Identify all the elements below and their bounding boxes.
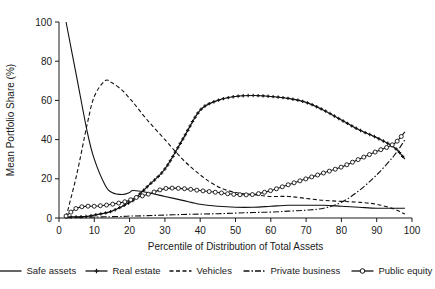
series-marker [176,186,180,190]
series-marker [286,97,289,100]
series-marker [367,153,371,157]
series-marker [333,167,337,171]
series-line [66,96,405,218]
series-marker [399,134,403,138]
chart-figure: 0204060801000102030405060708090100Percen… [0,0,435,289]
series-marker [379,148,383,152]
x-tick-label-40: 40 [195,225,207,236]
series-marker [390,143,394,147]
legend-item-vehicles[interactable]: Vehicles [170,265,233,276]
series-marker [80,205,84,209]
series-marker [152,190,156,194]
series-marker [111,202,115,206]
series-marker [117,201,121,205]
series-marker [123,200,127,204]
series-marker [129,198,133,202]
x-axis-title: Percentile of Distribution of Total Asse… [148,241,323,252]
series-marker [281,96,284,99]
series-marker [164,186,168,190]
x-tick-label-20: 20 [124,225,136,236]
y-tick-label-60: 60 [41,95,53,106]
y-tick-label-40: 40 [41,134,53,145]
x-tick-label-0: 0 [56,225,62,236]
series-marker [373,150,377,154]
series-marker [363,131,366,134]
series-marker [134,195,138,199]
series-marker [158,188,162,192]
legend-item-safe-assets[interactable]: Safe assets [0,265,76,276]
series-marker [105,203,109,207]
series-marker [232,192,236,196]
legend-label: Safe assets [27,265,77,276]
series-marker [298,179,302,183]
series-marker [219,191,223,195]
legend-marker-plus [94,269,98,273]
legend-item-private-business[interactable]: Private business [244,265,341,276]
series-marker [201,189,205,193]
series-vehicles [66,80,405,217]
series-marker [99,212,102,215]
series-marker [69,210,73,214]
series-marker [232,95,235,98]
series-marker [306,101,309,104]
series-marker [274,187,278,191]
series-marker [286,183,290,187]
series-marker [345,163,349,167]
series-marker [213,190,217,194]
series-marker [146,192,150,196]
legend-item-real-estate[interactable]: Real estate [86,265,161,276]
series-marker [269,189,273,193]
x-tick-label-60: 60 [265,225,277,236]
series-marker [104,211,107,214]
series-marker [92,204,96,208]
series-marker [395,139,399,143]
series-marker [222,97,225,100]
series-marker [207,190,211,194]
series-marker [280,185,284,189]
legend-label: Vehicles [197,265,233,276]
series-line [66,80,405,217]
series-marker [327,169,331,173]
series-marker [263,190,267,194]
legend-item-public-equity[interactable]: Public equity [352,265,433,276]
series-safe-assets [66,22,405,208]
series-marker [256,94,259,97]
series-marker [350,160,354,164]
series-marker [246,94,249,97]
series-marker [266,95,269,98]
x-tick-label-10: 10 [89,225,101,236]
series-marker [74,207,78,211]
legend-label: Public equity [379,265,433,276]
series-marker [310,175,314,179]
x-tick-label-70: 70 [301,225,313,236]
legend-label: Private business [271,265,341,276]
series-marker [301,100,304,103]
series-marker [189,187,193,191]
y-tick-label-20: 20 [41,173,53,184]
legend-label: Real estate [113,265,161,276]
series-marker [304,177,308,181]
x-tick-label-80: 80 [336,225,348,236]
series-private-business [66,140,405,218]
series-marker [339,165,343,169]
x-tick-label-30: 30 [159,225,171,236]
series-marker [195,188,199,192]
series-marker [296,98,299,101]
series-real-estate [64,94,405,219]
series-marker [212,100,215,103]
series-marker [241,94,244,97]
x-tick-label-90: 90 [371,225,383,236]
series-marker [356,158,360,162]
series-marker [292,181,296,185]
series-marker [271,95,274,98]
x-tick-label-50: 50 [230,225,242,236]
series-marker [316,173,320,177]
series-marker [244,193,248,197]
series-marker [109,210,112,213]
series-marker [86,204,90,208]
series-marker [261,94,264,97]
series-marker [170,186,174,190]
legend-marker-circle [360,269,365,274]
chart-canvas: 0204060801000102030405060708090100Percen… [0,0,435,289]
series-marker [385,145,389,149]
